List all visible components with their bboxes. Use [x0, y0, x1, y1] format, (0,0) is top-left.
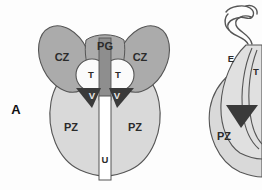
prostate-zonal-anatomy-diagram: CZ CZ PG T T V V PZ PZ U: [0, 0, 262, 190]
panel-label-a: A: [11, 102, 21, 117]
label-cz-left: CZ: [55, 51, 70, 63]
label-t-left: T: [88, 69, 94, 80]
label-v-right: V: [114, 90, 121, 101]
label-pz-left: PZ: [64, 121, 78, 133]
label-v-left: V: [89, 90, 96, 101]
label-u: U: [102, 154, 109, 165]
figure-container: CZ CZ PG T T V V PZ PZ U: [0, 0, 262, 190]
label-pz-right-fig: PZ: [217, 130, 231, 142]
label-pz-right: PZ: [128, 121, 142, 133]
label-t-right-fig: T: [253, 66, 259, 77]
label-e: E: [228, 53, 234, 64]
label-cz-right: CZ: [133, 51, 148, 63]
urethra-channel: [99, 96, 111, 180]
label-t-right: T: [115, 69, 121, 80]
label-pg: PG: [97, 40, 113, 52]
